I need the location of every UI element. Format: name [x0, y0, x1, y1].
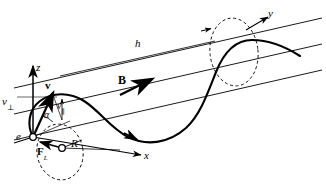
physics-diagram-figure: z x y e v v⊥ v∥ α B h FL R: [0, 0, 326, 187]
velocity-vector-label: v: [45, 80, 51, 91]
x-axis: [33, 137, 141, 155]
x-axis-label: x: [144, 150, 149, 161]
z-axis-label: z: [36, 62, 40, 73]
upper-field-line: [14, 18, 322, 88]
coordinate-axes: [14, 17, 268, 155]
lorentz-force-symbol: F: [37, 145, 44, 157]
velocity-perp-subscript: ⊥: [7, 103, 14, 112]
charge-label: e: [16, 131, 21, 142]
velocity-perpendicular-label: v⊥: [2, 96, 14, 110]
y-axis: [246, 17, 268, 30]
particle-on-circle: [59, 145, 66, 152]
gyroradius-label: R: [71, 138, 78, 149]
lorentz-force-label: FL: [37, 146, 48, 160]
pitch-angle-label: α: [44, 110, 49, 120]
magnetic-field-label: B: [118, 74, 126, 86]
velocity-par-subscript: ∥: [61, 108, 64, 116]
particle-at-origin: [30, 134, 37, 141]
field-line-direction-arrow-icon: [201, 29, 211, 31]
pitch-height-label: h: [135, 38, 141, 49]
lorentz-force-subscript: L: [44, 154, 48, 161]
velocity-parallel-label: v∥: [57, 101, 65, 114]
y-axis-label: y: [268, 8, 273, 19]
magnetic-field-lines: [14, 18, 322, 140]
diagram-canvas: [0, 0, 326, 187]
